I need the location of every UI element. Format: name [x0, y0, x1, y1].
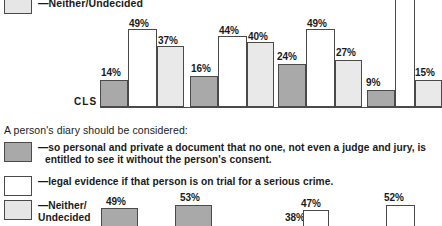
legend-swatch-legal-evidence — [4, 176, 32, 196]
bar-g2-dark[interactable] — [190, 76, 218, 107]
question-title: A person's diary should be considered: — [4, 124, 188, 136]
bar-value-g3-light: 27% — [336, 47, 356, 58]
bar-value-g4-dark: 9% — [366, 77, 380, 88]
bottom-bar-5[interactable] — [386, 205, 415, 226]
bar-g3-light[interactable] — [335, 60, 362, 107]
bar-g3-white[interactable] — [306, 29, 335, 107]
bar-value-g1-light: 37% — [158, 35, 178, 46]
bar-value-g2-dark: 16% — [191, 63, 211, 74]
bar-g3-dark[interactable] — [278, 64, 306, 107]
bar-g1-white[interactable] — [128, 29, 157, 107]
bottom-question-block: A person's diary should be considered: —… — [0, 120, 442, 226]
bottom-bar-value-2: 53% — [180, 192, 200, 203]
legend-swatch-so-personal — [4, 142, 32, 162]
bar-value-g3-white: 49% — [307, 18, 327, 29]
axis-label-cls: CLS — [74, 96, 97, 107]
top-bar-chart: —Neither/Undecided CLS 14% 49% 37% 16% 4… — [0, 0, 442, 120]
legend-swatch-neither-undecided — [4, 0, 32, 14]
bar-g4-light[interactable] — [415, 80, 442, 107]
bottom-bar-1[interactable] — [101, 208, 138, 226]
bar-value-g4-light: 15% — [415, 67, 435, 78]
bottom-bar-2[interactable] — [175, 205, 212, 226]
bar-value-g2-light: 40% — [248, 31, 268, 42]
legend-text-so-personal: —so personal and private a document that… — [38, 142, 426, 165]
bar-value-g2-white: 44% — [219, 25, 239, 36]
question-legend-item-2: —legal evidence if that person is on tri… — [4, 176, 442, 196]
legend-text-so-personal-line2: entitled to see it without the person's … — [38, 154, 426, 166]
bar-g2-light[interactable] — [247, 42, 274, 107]
bar-g2-white[interactable] — [218, 36, 247, 107]
bar-g1-dark[interactable] — [100, 80, 128, 107]
question-legend-item-3: —Neither/ Undecided — [4, 200, 91, 223]
legend-text-neither-undecided-line1: —Neither/ — [38, 200, 87, 211]
bar-group-2 — [190, 0, 274, 107]
bar-group-1 — [100, 0, 184, 107]
bar-value-g1-white: 49% — [129, 18, 149, 29]
bar-value-g1-dark: 14% — [101, 67, 121, 78]
bottom-bar-value-5: 52% — [384, 192, 404, 203]
bottom-bar-4[interactable] — [303, 210, 329, 226]
chart-page: —Neither/Undecided CLS 14% 49% 37% 16% 4… — [0, 0, 442, 226]
bottom-bar-value-4: 47% — [301, 198, 321, 209]
bar-g1-light[interactable] — [157, 46, 184, 107]
bar-g4-white[interactable] — [395, 0, 415, 107]
question-legend-item-1: —so personal and private a document that… — [4, 142, 442, 165]
bottom-bar-value-3: 38% — [285, 212, 305, 223]
legend-text-so-personal-line1: —so personal and private a document that… — [38, 142, 426, 153]
legend-text-neither-undecided: —Neither/ Undecided — [38, 200, 91, 223]
legend-text-neither-undecided-line2: Undecided — [38, 212, 91, 224]
bar-g4-dark[interactable] — [367, 90, 395, 107]
bottom-bar-value-1: 49% — [106, 196, 126, 207]
bar-group-4 — [367, 0, 442, 107]
legend-text-legal-evidence: —legal evidence if that person is on tri… — [38, 176, 333, 188]
bar-value-g3-dark: 24% — [277, 51, 297, 62]
chart-baseline — [100, 107, 442, 108]
legend-swatch-neither-undecided-2 — [4, 200, 32, 220]
